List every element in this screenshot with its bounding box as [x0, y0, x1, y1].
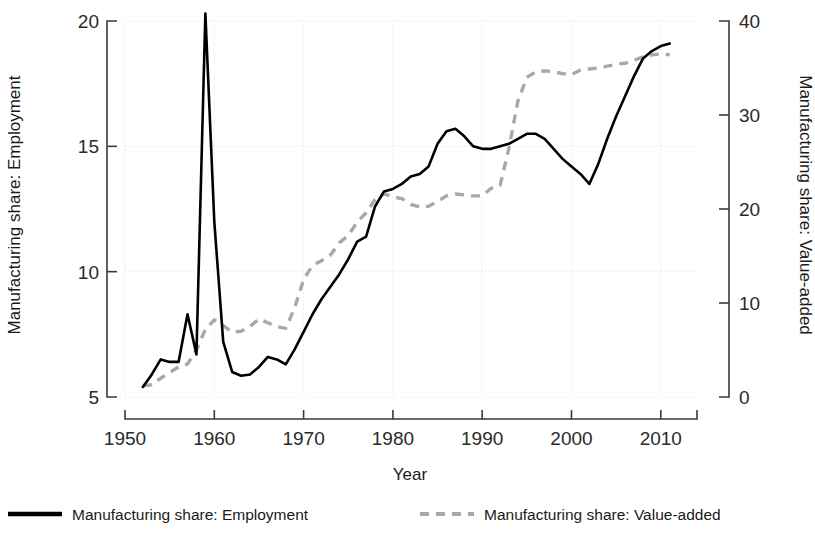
y-axis-right-tick-label: 10 [739, 293, 760, 314]
x-axis-tick-label: 1960 [193, 428, 235, 449]
legend-label-value-added: Manufacturing share: Value-added [484, 506, 721, 523]
manufacturing-share-line-chart: 5101520 010203040 1950196019701980199020… [0, 0, 815, 533]
x-axis-tick-label: 1970 [282, 428, 324, 449]
chart-background [0, 0, 815, 533]
x-axis-tick-label: 1990 [461, 428, 503, 449]
x-axis-tick-label: 2000 [550, 428, 592, 449]
y-axis-right-tick-label: 40 [739, 11, 760, 32]
y-axis-left-tick-label: 20 [78, 11, 99, 32]
x-axis-tick-label: 1950 [104, 428, 146, 449]
y-axis-left-tick-label: 10 [78, 262, 99, 283]
y-axis-left-tick-label: 5 [88, 387, 99, 408]
x-axis-tick-label: 2010 [640, 428, 682, 449]
y-axis-right-title: Manufacturing share: Value-added [796, 75, 815, 335]
y-axis-right-tick-label: 0 [739, 387, 750, 408]
y-axis-right-tick-label: 30 [739, 105, 760, 126]
y-axis-left-title: Manufacturing share: Employment [5, 75, 24, 334]
y-axis-right-tick-label: 20 [739, 199, 760, 220]
y-axis-left-tick-label: 15 [78, 136, 99, 157]
x-axis-title: Year [393, 465, 428, 484]
legend-label-employment: Manufacturing share: Employment [72, 506, 309, 523]
x-axis-tick-label: 1980 [372, 428, 414, 449]
